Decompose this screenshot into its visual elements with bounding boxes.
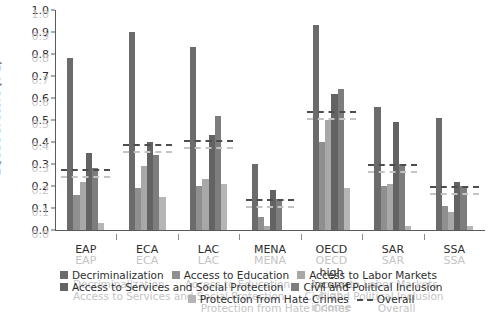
overall-reference-line-ghost bbox=[246, 206, 295, 208]
y-axis-tick-mark bbox=[51, 32, 55, 33]
overall-reference-line bbox=[307, 111, 356, 113]
y-axis-tick-label-ghost: 0.9 bbox=[32, 31, 50, 42]
y-axis-tick-label-ghost: 0.0 bbox=[32, 229, 50, 240]
y-axis-tick-label-ghost: 0.3 bbox=[32, 163, 50, 174]
x-axis-tick-label: SSASSA bbox=[424, 244, 485, 267]
bar-group-bars bbox=[436, 10, 473, 230]
bar-group bbox=[374, 10, 411, 230]
y-axis-tick-label-ghost: 0.1 bbox=[32, 207, 50, 218]
y-axis-tick-mark bbox=[51, 120, 55, 121]
x-axis-group-separator bbox=[239, 234, 240, 240]
bar[interactable] bbox=[98, 223, 104, 230]
y-axis-tick-label-ghost: 0.8 bbox=[32, 53, 50, 64]
x-axis-tick-label-ghost: SSA bbox=[424, 255, 485, 267]
overall-reference-line bbox=[123, 144, 172, 146]
chart-legend: DecriminalizationDecriminalizationAccess… bbox=[60, 270, 480, 306]
bar[interactable] bbox=[159, 197, 165, 230]
x-axis-tick-label: EAPEAP bbox=[55, 244, 116, 267]
bar-group-bars bbox=[190, 10, 227, 230]
overall-reference-line bbox=[246, 199, 295, 201]
overall-reference-line bbox=[430, 186, 479, 188]
legend-item-label: OverallOverall bbox=[377, 294, 415, 305]
overall-reference-line-ghost bbox=[61, 176, 110, 178]
bar-group bbox=[252, 10, 289, 230]
bar[interactable] bbox=[276, 199, 282, 230]
overall-reference-line bbox=[61, 169, 110, 171]
overall-reference-line-ghost bbox=[184, 147, 233, 149]
legend-color-swatch bbox=[188, 295, 196, 303]
y-axis-tick-mark bbox=[51, 142, 55, 143]
bar-group-bars bbox=[67, 10, 104, 230]
x-axis-tick-label-ghost: SAR bbox=[362, 255, 423, 267]
x-axis-group-separator bbox=[424, 234, 425, 240]
y-axis-tick-mark bbox=[51, 164, 55, 165]
legend-item-label: Civil and Political InclusionCivil and P… bbox=[303, 282, 442, 293]
bar-group bbox=[129, 10, 166, 230]
legend-item[interactable]: Access to Services and Social Protection… bbox=[60, 282, 283, 293]
plot-area: 0.00.00.10.10.20.20.30.30.40.40.50.50.60… bbox=[55, 10, 485, 230]
legend-dashed-line-marker bbox=[357, 299, 373, 301]
overall-reference-line-ghost bbox=[430, 193, 479, 195]
overall-reference-line-ghost bbox=[307, 118, 356, 120]
x-axis-line bbox=[55, 230, 485, 231]
bar-group-bars bbox=[129, 10, 166, 230]
x-axis-tick-label: LACLAC bbox=[178, 244, 239, 267]
x-axis-group-separator bbox=[178, 234, 179, 240]
x-axis-tick-label-ghost: EAP bbox=[55, 255, 116, 267]
y-axis-tick-label-ghost: 0.4 bbox=[32, 141, 50, 152]
legend-item[interactable]: DecriminalizationDecriminalization bbox=[60, 270, 164, 281]
y-axis-tick-label-ghost: 0.7 bbox=[32, 75, 50, 86]
legend-item[interactable]: Civil and Political InclusionCivil and P… bbox=[291, 282, 442, 293]
bar-group bbox=[313, 10, 350, 230]
y-axis-tick-label-ghost: 0.5 bbox=[32, 119, 50, 130]
x-axis-tick-label-ghost: MENA bbox=[239, 255, 300, 267]
legend-row: Protection from Hate CrimesProtection fr… bbox=[60, 294, 480, 305]
legend-item[interactable]: Access to EducationAccess to Education bbox=[172, 270, 289, 281]
y-axis-title-ghost: EQOSOGI score (0-1) bbox=[0, 60, 3, 175]
legend-item[interactable]: Access to Labor MarketsAccess to Labor M… bbox=[297, 270, 437, 281]
bar-group-bars bbox=[374, 10, 411, 230]
x-axis-tick-label: ECAECA bbox=[116, 244, 177, 267]
chart-page: EQOSOGI score (0-1) EQOSOGI score (0-1) … bbox=[0, 0, 490, 334]
y-axis-tick-mark bbox=[51, 10, 55, 11]
legend-item-label-ghost: Overall bbox=[378, 303, 416, 314]
legend-row: DecriminalizationDecriminalizationAccess… bbox=[60, 270, 480, 281]
bar[interactable] bbox=[405, 226, 411, 230]
y-axis-tick-mark bbox=[51, 54, 55, 55]
y-axis-tick-mark bbox=[51, 76, 55, 77]
legend-color-swatch bbox=[291, 283, 299, 291]
y-axis-tick-label-ghost: 1.0 bbox=[32, 9, 50, 20]
legend-item-label-ghost: Protection from Hate Crimes bbox=[201, 303, 350, 314]
x-axis-group-separator bbox=[362, 234, 363, 240]
y-axis-tick-label-ghost: 0.6 bbox=[32, 97, 50, 108]
legend-item-label: Access to Labor MarketsAccess to Labor M… bbox=[309, 270, 437, 281]
legend-item[interactable]: OverallOverall bbox=[357, 294, 415, 305]
overall-reference-line bbox=[368, 164, 417, 166]
legend-item-label: DecriminalizationDecriminalization bbox=[72, 270, 164, 281]
y-axis-tick-mark bbox=[51, 230, 55, 231]
legend-row: Access to Services and Social Protection… bbox=[60, 282, 480, 293]
x-axis-tick-label-ghost: ECA bbox=[116, 255, 177, 267]
bar[interactable] bbox=[221, 184, 227, 230]
y-axis-tick-mark bbox=[51, 208, 55, 209]
bar[interactable] bbox=[399, 164, 405, 230]
bar[interactable] bbox=[344, 188, 350, 230]
legend-color-swatch bbox=[297, 271, 305, 279]
legend-item[interactable]: Protection from Hate CrimesProtection fr… bbox=[188, 294, 349, 305]
bar-group bbox=[436, 10, 473, 230]
y-axis-title: EQOSOGI score (0-1) EQOSOGI score (0-1) bbox=[0, 61, 3, 176]
y-axis-tick-mark bbox=[51, 186, 55, 187]
bar-group-bars bbox=[252, 10, 289, 230]
bar[interactable] bbox=[92, 168, 98, 230]
bar[interactable] bbox=[467, 226, 473, 230]
x-axis-tick-label-ghost: LAC bbox=[178, 255, 239, 267]
legend-color-swatch bbox=[60, 283, 68, 291]
x-axis-tick-label: SARSAR bbox=[362, 244, 423, 267]
y-axis-tick-mark bbox=[51, 98, 55, 99]
legend-color-swatch bbox=[172, 271, 180, 279]
bar-group bbox=[67, 10, 104, 230]
y-axis-tick-label-ghost: 0.2 bbox=[32, 185, 50, 196]
legend-item-label: Access to Services and Social Protection… bbox=[72, 282, 283, 293]
x-axis-tick-label: MENAMENA bbox=[239, 244, 300, 267]
legend-item-label: Protection from Hate CrimesProtection fr… bbox=[200, 294, 349, 305]
